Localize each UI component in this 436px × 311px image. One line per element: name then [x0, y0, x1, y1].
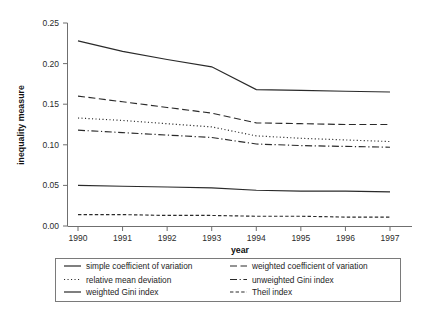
y-tick-label: 0.20	[42, 59, 59, 69]
y-tick-label: 0.10	[42, 140, 59, 150]
x-tick-label: 1994	[247, 233, 266, 243]
x-axis-title: year	[231, 245, 250, 255]
legend-label: weighted Gini index	[85, 287, 159, 297]
x-tick-label: 1992	[158, 233, 177, 243]
x-tick-label: 1991	[113, 233, 132, 243]
legend-label: unweighted Gini index	[252, 275, 334, 285]
legend-label: Theil index	[252, 287, 293, 297]
y-tick-label: 0.05	[42, 180, 59, 190]
x-tick-label: 1993	[202, 233, 221, 243]
y-tick-label: 0.25	[42, 18, 59, 28]
y-tick-label: 0.15	[42, 99, 59, 109]
inequality-measure-line-chart: 0.000.050.100.150.200.25 199019911992199…	[0, 0, 436, 311]
x-tick-label: 1997	[381, 233, 400, 243]
x-tick-label: 1990	[69, 233, 88, 243]
legend-label: simple coefficient of variation	[86, 261, 193, 271]
y-tick-label: 0.00	[42, 221, 59, 231]
chart-background	[0, 0, 436, 311]
x-tick-label: 1995	[291, 233, 310, 243]
legend-label: weighted coefficient of variation	[251, 261, 368, 271]
chart-figure: 0.000.050.100.150.200.25 199019911992199…	[0, 0, 436, 311]
y-axis-title: inequality measure	[16, 85, 26, 165]
legend-label: relative mean deviation	[86, 275, 172, 285]
x-tick-label: 1996	[336, 233, 355, 243]
